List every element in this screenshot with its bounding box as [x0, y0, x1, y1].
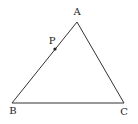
label-p: P	[49, 35, 56, 46]
point-p-dot	[53, 47, 56, 50]
label-b: B	[9, 105, 16, 116]
segment-ca	[77, 22, 124, 103]
label-c: C	[120, 106, 128, 117]
label-a: A	[72, 6, 81, 17]
triangle-diagram: A P B C	[0, 0, 138, 124]
segment-ab	[12, 22, 77, 103]
